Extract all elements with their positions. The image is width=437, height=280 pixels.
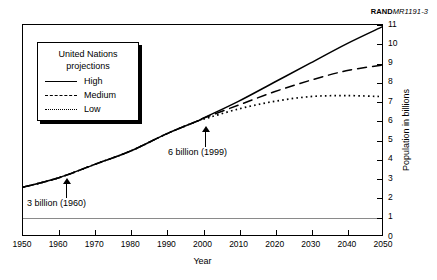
x-tick-1960 [59, 230, 60, 235]
legend-item-label: High [84, 76, 103, 86]
annotation-label-2: 6 billion (1999) [168, 147, 227, 157]
chart-legend: United Nations projections HighMediumLow [37, 42, 139, 121]
y-tick-9 [377, 64, 382, 65]
y-axis-title: Population in billions [399, 24, 413, 236]
x-axis-title: Year [22, 256, 383, 266]
y-tick-6 [377, 121, 382, 122]
x-tick-label-2020: 2020 [258, 239, 292, 249]
x-tick-label-1980: 1980 [113, 239, 147, 249]
x-tick-1990 [167, 230, 168, 235]
legend-swatch-dashed-line-icon [45, 91, 77, 99]
figure-id-code: MR1191-3 [393, 7, 428, 16]
x-tick-label-2030: 2030 [294, 239, 328, 249]
legend-item-low: Low [45, 104, 131, 114]
legend-title-line2: projections [45, 60, 131, 72]
legend-swatch-solid-line-icon [45, 77, 77, 85]
y-tick-10 [377, 44, 382, 45]
legend-item-medium: Medium [45, 90, 131, 100]
x-tick-2020 [276, 230, 277, 235]
x-tick-label-1970: 1970 [77, 239, 111, 249]
y-tick-11 [377, 25, 382, 26]
y-tick-8 [377, 83, 382, 84]
x-tick-2010 [240, 230, 241, 235]
x-tick-label-2000: 2000 [186, 239, 220, 249]
y-tick-7 [377, 102, 382, 103]
x-tick-label-1950: 1950 [5, 239, 39, 249]
y-tick-2 [377, 198, 382, 199]
figure-id-brand: RAND [371, 7, 393, 16]
y-tick-1 [377, 218, 382, 219]
figure-id: RANDMR1191-3 [371, 7, 428, 16]
y-tick-4 [377, 160, 382, 161]
x-tick-2000 [204, 230, 205, 235]
x-tick-label-2050: 2050 [366, 239, 400, 249]
x-tick-label-2040: 2040 [330, 239, 364, 249]
legend-title-line1: United Nations [45, 48, 131, 60]
annotation-label-1: 3 billion (1960) [27, 198, 86, 208]
legend-swatch-dotted-line-icon [45, 105, 77, 113]
legend-item-high: High [45, 76, 131, 86]
x-tick-1970 [95, 230, 96, 235]
x-tick-label-1960: 1960 [41, 239, 75, 249]
y-tick-5 [377, 141, 382, 142]
x-tick-2040 [348, 230, 349, 235]
x-tick-label-2010: 2010 [222, 239, 256, 249]
legend-rows: HighMediumLow [45, 76, 131, 114]
x-tick-2030 [312, 230, 313, 235]
y-axis-title-text: Population in billions [401, 89, 411, 171]
y-tick-3 [377, 179, 382, 180]
legend-item-label: Low [84, 104, 101, 114]
x-tick-label-1990: 1990 [149, 239, 183, 249]
x-tick-1980 [131, 230, 132, 235]
legend-item-label: Medium [84, 90, 116, 100]
